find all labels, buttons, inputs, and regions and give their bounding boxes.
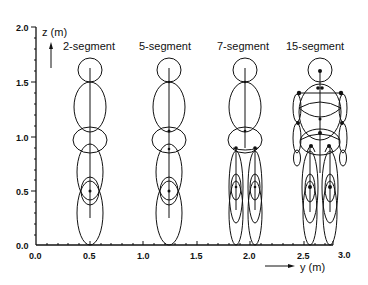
y-tick-label: 0.5 <box>16 187 29 197</box>
y-tick-label: 2.0 <box>16 23 29 33</box>
model-5-segment <box>152 58 186 245</box>
x-tick-label: 2.5 <box>297 251 310 261</box>
right-arrow-icon <box>265 264 295 268</box>
model-label-15-segment: 15-segment <box>286 40 344 52</box>
x-tick-label: 1.0 <box>137 251 150 261</box>
model-15-segment <box>293 58 347 245</box>
y-tick-label: 1.5 <box>16 78 29 88</box>
model-7-segment <box>228 58 262 245</box>
x-tick-label: 2.0 <box>243 251 256 261</box>
x-tick-labels: 0.0 0.5 1.0 1.5 2.0 2.5 3.0 <box>29 250 351 261</box>
model-label-7-segment: 7-segment <box>217 40 269 52</box>
figure-canvas: 2.0 1.5 1.0 0.5 0.0 0.0 0.5 1.0 1.5 2.0 … <box>0 0 368 285</box>
up-arrow-icon <box>49 42 53 68</box>
x-tick-label: 1.5 <box>190 251 203 261</box>
segment-model-figure: 2.0 1.5 1.0 0.5 0.0 0.0 0.5 1.0 1.5 2.0 … <box>0 0 368 285</box>
model-label-2-segment: 2-segment <box>63 40 115 52</box>
model-2-segment <box>73 58 107 245</box>
z-axis-label: z (m) <box>42 26 67 38</box>
model-label-5-segment: 5-segment <box>139 40 191 52</box>
y-tick-labels: 2.0 1.5 1.0 0.5 0.0 <box>16 23 29 251</box>
x-tick-label: 3.0 <box>338 250 351 260</box>
y-tick-label: 1.0 <box>16 133 29 143</box>
y-tick-label: 0.0 <box>16 241 29 251</box>
x-tick-label: 0.5 <box>83 251 96 261</box>
y-axis-label: y (m) <box>300 261 325 273</box>
x-tick-label: 0.0 <box>29 251 42 261</box>
